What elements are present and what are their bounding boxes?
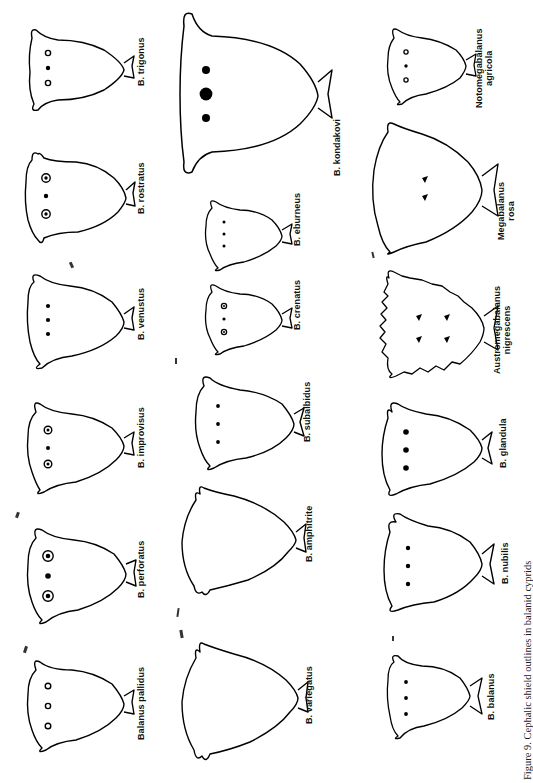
scan-artifact-mark [179,630,183,638]
label-venustus: B. venustus [136,288,146,340]
specimen-balanus [378,652,488,744]
specimen-nigrescens [372,268,500,390]
specimen-perforatus [18,524,138,628]
label-agricola-line2: agricola [484,28,494,108]
scan-artifact-mark [23,646,28,654]
label-nubilis: B. nubilis [500,543,510,585]
figure-caption: Figure 9. Cephalic shield outlines in ba… [522,561,533,780]
specimen-rostratus [18,146,138,250]
scan-artifact-mark [15,512,20,519]
label-trigonus: B. trigonus [136,37,146,86]
label-agricola-line1: Notomegabalanus [474,28,484,108]
label-variegatus: B. variegatus [304,666,314,724]
scan-artifact-mark [176,608,179,617]
specimen-subalbidus [186,374,306,474]
specimen-eburneus [200,196,296,274]
scan-artifact-mark [69,262,74,269]
figure-plate: B. trigonus B. rostratus B. venustus [0,0,533,783]
label-nigrescens-line2: nigrescens [502,286,512,374]
specimen-variegatus [176,640,310,764]
specimen-crenatus [200,278,296,356]
specimen-venustus [16,272,138,372]
specimen-pallidus [18,654,138,756]
specimen-kondakovi [176,8,336,180]
specimen-glandula [372,400,494,502]
label-amphitrite: B. amphitrite [304,506,314,562]
label-agricola: Notomegabalanus agricola [474,28,494,108]
label-perforatus: B. perforatus [136,541,146,598]
label-subalbidus: B. subalbidus [302,382,312,442]
label-rosa: Megabalanus rosa [496,182,516,240]
label-glandula: B. glandula [498,418,508,468]
scan-artifact-mark [175,358,177,364]
label-kondakovi: B. kondakovi [332,119,342,176]
label-rostratus: B. rostratus [136,162,146,214]
label-rosa-line1: Megabalanus [496,182,506,240]
label-nigrescens-line1: Austromegabalanus [492,286,502,374]
label-nigrescens: Austromegabalanus nigrescens [492,286,512,374]
specimen-rosa [368,120,502,256]
label-improvisus: B. improvisus [136,407,146,468]
specimen-agricola [380,24,480,108]
specimen-trigonus [18,20,138,120]
label-balanus: B. balanus [486,673,496,720]
scan-artifact-mark [392,636,394,641]
label-crenatus: B. crenatus [292,280,302,330]
specimen-improvisus [18,398,138,498]
label-pallidus: Balanus pallidus [136,667,146,740]
specimen-amphitrite [178,484,310,600]
label-rosa-line2: rosa [506,182,516,240]
specimen-nubilis [372,512,496,620]
label-eburneus: B. eburneus [292,193,302,246]
